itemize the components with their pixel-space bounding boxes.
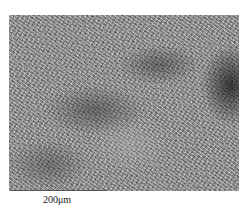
scale-bar (11, 190, 107, 191)
micrograph-image (9, 15, 239, 191)
scale-bar-label: 200μm (43, 195, 71, 205)
